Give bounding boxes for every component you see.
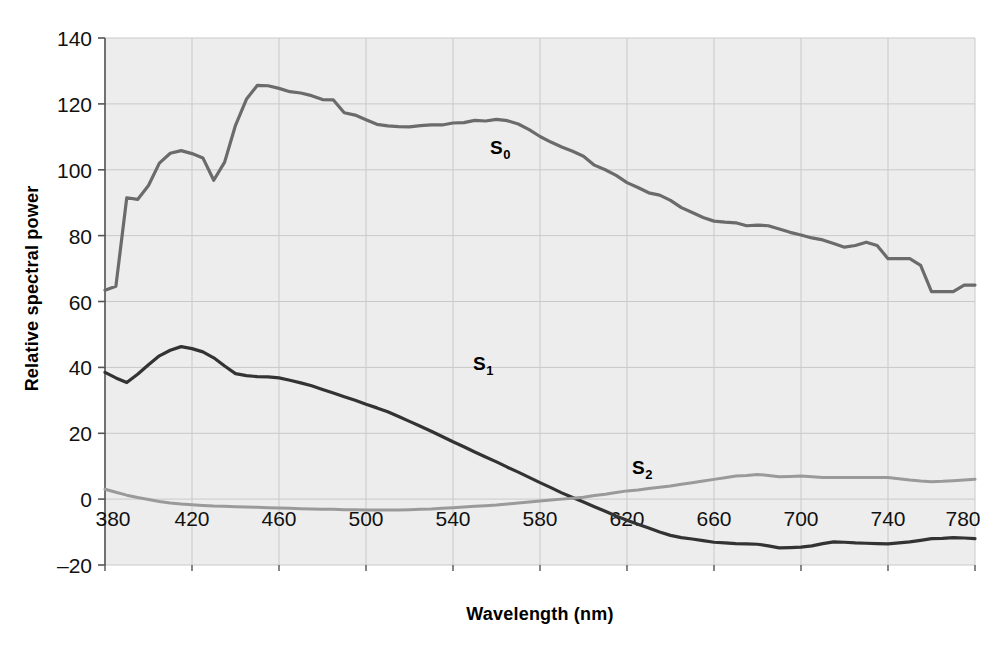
x-tick-label: 660 xyxy=(696,507,731,530)
y-tick-label: 140 xyxy=(57,27,92,50)
y-tick-label: –20 xyxy=(57,554,92,577)
x-tick-label: 460 xyxy=(261,507,296,530)
x-tick-label: 700 xyxy=(783,507,818,530)
x-tick-label: 740 xyxy=(870,507,905,530)
y-tick-label: 20 xyxy=(69,422,92,445)
x-tick-label: 780 xyxy=(945,507,980,530)
series-label-subscript: 1 xyxy=(486,363,493,378)
x-axis-ticks xyxy=(105,565,975,571)
series-label-subscript: 0 xyxy=(503,147,510,162)
chart-container: Relative spectral power –200204060801001… xyxy=(0,0,999,657)
x-tick-label: 420 xyxy=(174,507,209,530)
y-axis-tick-labels: –20020406080100120140 xyxy=(57,27,92,577)
y-tick-label: 40 xyxy=(69,356,92,379)
x-tick-label: 540 xyxy=(435,507,470,530)
x-tick-label: 380 xyxy=(95,507,130,530)
y-tick-label: 60 xyxy=(69,291,92,314)
y-tick-label: 120 xyxy=(57,93,92,116)
y-tick-label: 80 xyxy=(69,225,92,248)
y-tick-label: 100 xyxy=(57,159,92,182)
x-tick-label: 580 xyxy=(522,507,557,530)
x-axis-title: Wavelength (nm) xyxy=(105,604,975,625)
series-label-subscript: 2 xyxy=(645,467,652,482)
chart-plot-svg: –20020406080100120140 380420460500540580… xyxy=(0,0,999,657)
y-axis-ticks xyxy=(98,38,105,565)
y-tick-label: 0 xyxy=(80,488,92,511)
